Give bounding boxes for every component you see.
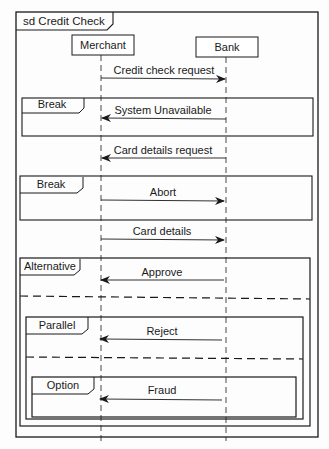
svg-text:Card details request: Card details request [114,144,212,156]
sequence-diagram: sd Credit Check Merchant Bank Credit che… [0,0,329,449]
fragment-operator-label: Option [47,379,79,391]
message-card-details-request: Card details request [102,144,226,158]
lifeline-bank-label: Bank [214,41,240,53]
fragment-break-1: Break System Unavailable [22,98,313,136]
svg-text:Credit check request: Credit check request [114,64,215,76]
lifeline-merchant: Merchant [72,35,134,441]
fragment-operator-label: Alternative [24,260,76,272]
fragment-operator-label: Break [37,178,66,190]
message-system-unavailable: System Unavailable [114,104,211,116]
message-card-details: Card details [101,225,224,240]
message-reject: Reject [146,325,177,337]
message-credit-check-request: Credit check request [101,64,225,79]
fragment-operator-label: Break [38,98,67,110]
fragment-break-2: Break Abort [20,176,312,220]
diagram-title: sd Credit Check [23,15,105,27]
message-approve: Approve [142,266,183,278]
fragment-operator-label: Parallel [39,319,76,331]
operand-separator [26,357,303,359]
svg-text:Card details: Card details [133,225,192,237]
message-fraud: Fraud [148,384,177,396]
lifeline-merchant-label: Merchant [80,39,126,51]
operand-separator [20,296,310,299]
message-abort: Abort [150,186,176,198]
fragment-option: Option Fraud [32,377,296,417]
fragment-parallel: Parallel Reject [26,317,303,419]
fragment-alternative: Alternative Approve [20,258,310,426]
